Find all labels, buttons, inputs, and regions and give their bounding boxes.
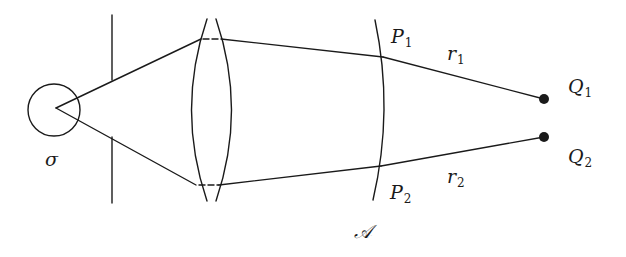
ray-source-upper (56, 39, 201, 108)
label-p2: P2 (390, 183, 411, 205)
label-p1: P1 (391, 27, 412, 49)
label-r1: r1 (447, 44, 465, 66)
label-r2: r2 (447, 167, 465, 189)
lens-left-surface (192, 19, 208, 201)
label-sigma: σ (45, 150, 58, 169)
source-circle (28, 84, 80, 136)
optics-diagram: σ P1 r1 Q1 Q2 r2 P2 𝒜 (0, 0, 626, 257)
label-q2: Q2 (568, 147, 592, 169)
ray-r2 (381, 137, 544, 166)
wavefront-arc (373, 20, 384, 200)
q1-point (539, 94, 549, 104)
lens-right-surface (216, 19, 232, 201)
q2-point (539, 132, 549, 142)
ray-source-lower (56, 108, 196, 185)
label-q1: Q1 (568, 77, 592, 99)
label-wavefront-a: 𝒜 (354, 222, 372, 241)
ray-lens-lower (219, 166, 381, 185)
ray-lens-upper (221, 39, 383, 57)
diagram-drawing (0, 0, 626, 257)
